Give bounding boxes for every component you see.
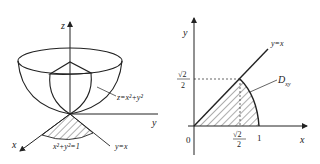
region-dxy: [194, 79, 259, 126]
x-tick-sqrt2-denominator: 2: [237, 140, 241, 149]
y-axis-label-2d: y: [182, 27, 188, 38]
left-3d-figure: z y x z=x²+y² x²+y²=1 y=x: [11, 20, 158, 151]
y-tick-sqrt2-numerator: √2: [178, 70, 186, 79]
surface-label: z=x²+y²: [116, 93, 143, 102]
right-2d-figure: y x 0 y=x Dxy √2 2 1 √2 2: [177, 18, 307, 155]
y-axis-label: y: [151, 117, 157, 128]
region-label: Dxy: [277, 74, 291, 87]
circle-label: x²+y²=1: [52, 142, 80, 151]
x-axis-label: x: [11, 139, 17, 150]
surface-wedge-right: [70, 73, 91, 114]
origin-label: 0: [186, 135, 191, 145]
x-axis-label-2d: x: [299, 134, 305, 145]
x-tick-one: 1: [257, 133, 262, 143]
region-leader: [250, 80, 277, 92]
diagram-canvas: z y x z=x²+y² x²+y²=1 y=x y x 0 y=x Dxy …: [0, 0, 320, 164]
projection-region: [42, 114, 93, 140]
y-tick-sqrt2-denominator: 2: [181, 81, 185, 90]
line-label-left: y=x: [114, 142, 128, 151]
surface-wedge-left: [50, 74, 70, 114]
x-tick-sqrt2-numerator: √2: [233, 130, 241, 139]
z-axis-label: z: [60, 20, 65, 31]
line-label-right: y=x: [270, 39, 284, 48]
